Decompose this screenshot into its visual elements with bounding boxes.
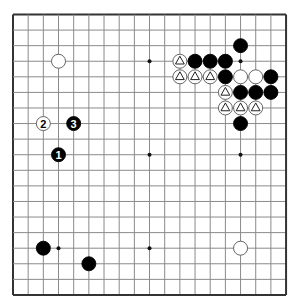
black-stone	[264, 85, 278, 99]
go-board: 231	[0, 0, 296, 306]
white-stone-numbered: 2	[36, 117, 50, 131]
black-stone	[234, 85, 248, 99]
star-point	[148, 153, 152, 157]
star-point	[57, 246, 61, 250]
white-stone	[234, 241, 248, 255]
white-stone-triangle-marked	[203, 70, 217, 84]
black-stone	[188, 54, 202, 68]
star-point	[148, 246, 152, 250]
black-stone	[82, 257, 96, 271]
move-number-label: 2	[40, 118, 46, 130]
black-stone	[234, 117, 248, 131]
black-stone	[203, 54, 217, 68]
white-stone-triangle-marked	[249, 101, 263, 115]
white-stone	[234, 70, 248, 84]
star-point	[239, 59, 243, 63]
black-stone	[218, 54, 232, 68]
white-stone-triangle-marked	[173, 70, 187, 84]
white-stone-triangle-marked	[218, 101, 232, 115]
white-stone	[52, 54, 66, 68]
move-number-label: 1	[55, 149, 61, 161]
star-point	[239, 153, 243, 157]
white-stone	[249, 70, 263, 84]
black-stone	[249, 85, 263, 99]
move-number-label: 3	[71, 118, 77, 130]
white-stone-triangle-marked	[234, 101, 248, 115]
white-stone-triangle-marked	[188, 70, 202, 84]
black-stone	[218, 70, 232, 84]
black-stone-numbered: 1	[52, 148, 66, 162]
black-stone	[36, 241, 50, 255]
black-stone	[264, 70, 278, 84]
black-stone	[234, 39, 248, 53]
black-stone-numbered: 3	[67, 117, 81, 131]
star-point	[148, 59, 152, 63]
white-stone-triangle-marked	[218, 85, 232, 99]
white-stone-triangle-marked	[173, 54, 187, 68]
